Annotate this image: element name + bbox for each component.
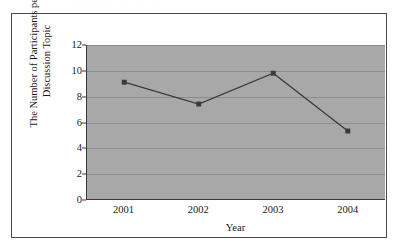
- y-axis-title: The Number of Participants per Discussio…: [25, 0, 55, 141]
- data-point-marker: [271, 71, 276, 76]
- x-axis-tick-label: 2002: [188, 205, 209, 216]
- clipped-text-artifact: ........ ... .. ..: [0, 0, 398, 8]
- y-axis-tick-labels: 024681012: [52, 45, 82, 200]
- data-point-marker: [122, 80, 127, 85]
- data-point-marker: [345, 128, 350, 133]
- y-axis-title-line-1: The Number of Participants per: [27, 0, 40, 127]
- x-axis-title: Year: [86, 223, 385, 234]
- y-axis-tick-label: 10: [72, 66, 83, 77]
- x-axis-tick-label: 2001: [113, 205, 134, 216]
- x-axis-tick-label: 2004: [337, 205, 358, 216]
- data-series-line: [87, 45, 385, 199]
- x-axis-tick-label: 2003: [262, 205, 283, 216]
- y-axis-tick-label: 12: [72, 40, 83, 51]
- x-axis-tick-labels: 2001200220032004: [86, 205, 385, 219]
- chart-figure-frame: The Number of Participants per Discussio…: [11, 13, 387, 238]
- plot-area: [86, 45, 385, 200]
- series-line: [124, 73, 348, 131]
- data-point-marker: [196, 102, 201, 107]
